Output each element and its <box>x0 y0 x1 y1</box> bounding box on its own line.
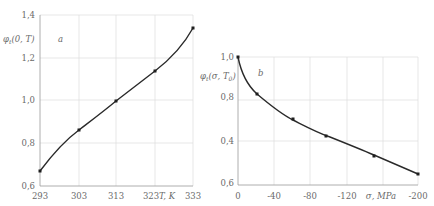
panel-a: 1,4 1,2 1,0 0,8 0,6 293 303 313 323 T, K… <box>3 10 201 201</box>
panel-b-ytick: 0,8 <box>220 92 234 102</box>
panel-a-xtick: 313 <box>108 191 124 201</box>
panel-a-ytick: 1,2 <box>21 53 35 63</box>
panel-a-label: a <box>58 34 63 44</box>
panel-a-ylabel: φt(0, T) <box>3 34 35 45</box>
panel-b-label: b <box>258 68 263 78</box>
panel-a-ytick: 1,4 <box>21 10 35 20</box>
panel-b-xtick: -80 <box>303 191 317 201</box>
panel-b-xtick: -120 <box>337 191 356 201</box>
panel-a-xtick: 333 <box>185 191 201 201</box>
panel-b-curve <box>238 57 418 174</box>
panel-b: 1,0 0,8 0,4 0,6 0 -40 -80 -120 σ, MPa -2… <box>200 52 428 201</box>
panel-b-xtick: -200 <box>408 191 427 201</box>
panel-b-ytick: 0,4 <box>220 136 234 146</box>
panel-a-ytick: 1,0 <box>21 95 35 105</box>
panel-b-grid <box>238 57 418 185</box>
panel-a-xtick: 323 <box>143 191 159 201</box>
panel-a-ytick: 0,8 <box>21 138 35 148</box>
panel-b-ytick: 0,6 <box>220 178 234 188</box>
panel-a-xtick: 293 <box>32 191 48 201</box>
panel-b-xtick: 0 <box>235 191 240 201</box>
panel-a-points <box>39 27 195 173</box>
panel-b-ytick: 1,0 <box>220 52 234 62</box>
figure: 1,4 1,2 1,0 0,8 0,6 293 303 313 323 T, K… <box>0 0 434 206</box>
panel-b-xlabel: σ, MPa <box>366 191 396 201</box>
panel-a-xlabel: T, K <box>159 191 176 201</box>
panel-b-points <box>237 56 420 176</box>
panel-a-xtick: 303 <box>71 191 87 201</box>
panel-b-xtick: -40 <box>267 191 281 201</box>
panel-a-ytick: 0,6 <box>21 181 35 191</box>
panel-b-ylabel: φt(σ, T0) <box>200 71 236 82</box>
